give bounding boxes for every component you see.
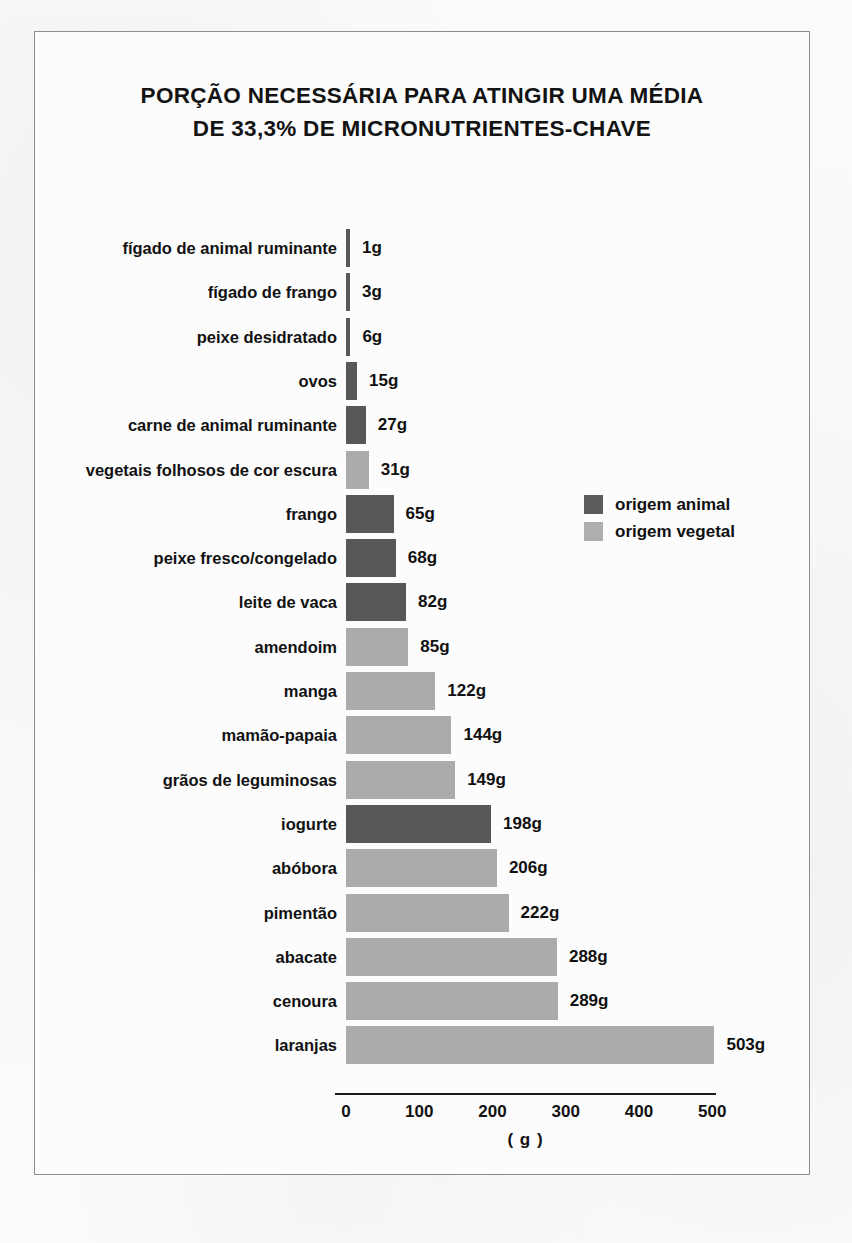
bar-animal	[346, 229, 350, 267]
x-tick-label: 400	[625, 1102, 653, 1122]
bar-value-label: 85g	[420, 628, 449, 666]
bar-category-label: peixe fresco/congelado	[154, 539, 337, 577]
bar-value-label: 122g	[447, 672, 486, 710]
bar-row: fígado de animal ruminante1g	[35, 229, 809, 267]
bar-value-label: 15g	[369, 362, 398, 400]
bar-row: cenoura289g	[35, 982, 809, 1020]
bar-row: laranjas503g	[35, 1026, 809, 1064]
bar-category-label: carne de animal ruminante	[128, 406, 337, 444]
bar-value-label: 65g	[406, 495, 435, 533]
bar-animal	[346, 495, 394, 533]
bar-value-label: 1g	[362, 229, 382, 267]
bar-animal	[346, 318, 350, 356]
bar-animal	[346, 805, 491, 843]
bar-category-label: mamão-papaia	[221, 716, 337, 754]
legend-item-vegetal: origem vegetal	[584, 518, 735, 545]
bar-animal	[346, 406, 366, 444]
bar-value-label: 68g	[408, 539, 437, 577]
bar-row: pimentão222g	[35, 894, 809, 932]
x-axis-ticks: 0100200300400500	[335, 1102, 716, 1126]
bar-category-label: laranjas	[275, 1026, 337, 1064]
bar-value-label: 206g	[509, 849, 548, 887]
bar-vegetal	[346, 761, 455, 799]
bar-animal	[346, 273, 350, 311]
bar-vegetal	[346, 716, 451, 754]
bar-category-label: fígado de animal ruminante	[122, 229, 337, 267]
bar-category-label: cenoura	[273, 982, 337, 1020]
bar-category-label: fígado de frango	[208, 273, 337, 311]
bar-row: abóbora206g	[35, 849, 809, 887]
bar-category-label: abóbora	[272, 849, 337, 887]
chart-frame: PORÇÃO NECESSÁRIA PARA ATINGIR UMA MÉDIA…	[34, 31, 810, 1175]
bar-category-label: amendoim	[254, 628, 337, 666]
bar-value-label: 198g	[503, 805, 542, 843]
x-tick-label: 500	[698, 1102, 726, 1122]
bar-value-label: 6g	[362, 318, 382, 356]
legend-swatch-icon	[584, 495, 603, 514]
legend-item-animal: origem animal	[584, 491, 735, 518]
bar-value-label: 144g	[463, 716, 502, 754]
bar-value-label: 149g	[467, 761, 506, 799]
bar-row: fígado de frango3g	[35, 273, 809, 311]
legend-label: origem vegetal	[615, 522, 735, 542]
x-tick-label: 0	[341, 1102, 350, 1122]
legend-label: origem animal	[615, 495, 730, 515]
chart-legend: origem animalorigem vegetal	[584, 491, 735, 545]
bar-value-label: 288g	[569, 938, 608, 976]
bar-vegetal	[346, 1026, 714, 1064]
bar-row: vegetais folhosos de cor escura31g	[35, 451, 809, 489]
bar-vegetal	[346, 451, 369, 489]
bar-category-label: abacate	[276, 938, 337, 976]
bar-category-label: pimentão	[264, 894, 337, 932]
bar-category-label: peixe desidratado	[197, 318, 337, 356]
bar-value-label: 31g	[381, 451, 410, 489]
bar-animal	[346, 539, 396, 577]
bar-row: amendoim85g	[35, 628, 809, 666]
bar-row: peixe desidratado6g	[35, 318, 809, 356]
bar-vegetal	[346, 982, 558, 1020]
bar-row: abacate288g	[35, 938, 809, 976]
bar-row: manga122g	[35, 672, 809, 710]
bar-row: mamão-papaia144g	[35, 716, 809, 754]
bar-category-label: grãos de leguminosas	[163, 761, 337, 799]
bar-category-label: leite de vaca	[239, 583, 337, 621]
bar-row: iogurte198g	[35, 805, 809, 843]
bar-row: grãos de leguminosas149g	[35, 761, 809, 799]
bar-row: ovos15g	[35, 362, 809, 400]
bar-value-label: 222g	[521, 894, 560, 932]
x-tick-label: 200	[478, 1102, 506, 1122]
plot-area: fígado de animal ruminante1gfígado de fr…	[35, 32, 809, 1174]
bar-value-label: 3g	[362, 273, 382, 311]
bar-category-label: iogurte	[281, 805, 337, 843]
bar-category-label: manga	[284, 672, 337, 710]
bar-vegetal	[346, 672, 435, 710]
x-axis-line	[335, 1093, 716, 1095]
bar-vegetal	[346, 894, 509, 932]
bar-value-label: 289g	[570, 982, 609, 1020]
bar-animal	[346, 362, 357, 400]
x-tick-label: 300	[552, 1102, 580, 1122]
bar-value-label: 27g	[378, 406, 407, 444]
x-axis-unit-label: ( g )	[335, 1130, 716, 1150]
bar-animal	[346, 583, 406, 621]
bar-vegetal	[346, 849, 497, 887]
bar-value-label: 503g	[726, 1026, 765, 1064]
legend-swatch-icon	[584, 522, 603, 541]
bar-value-label: 82g	[418, 583, 447, 621]
bar-vegetal	[346, 628, 408, 666]
bar-category-label: ovos	[298, 362, 337, 400]
bar-category-label: vegetais folhosos de cor escura	[86, 451, 337, 489]
bar-row: leite de vaca82g	[35, 583, 809, 621]
x-tick-label: 100	[405, 1102, 433, 1122]
bar-row: carne de animal ruminante27g	[35, 406, 809, 444]
bar-vegetal	[346, 938, 557, 976]
bar-category-label: frango	[286, 495, 337, 533]
